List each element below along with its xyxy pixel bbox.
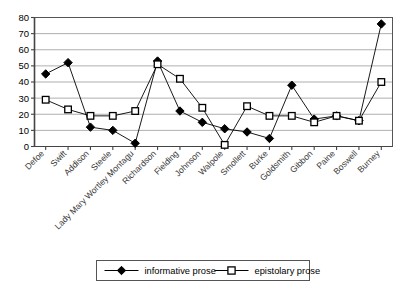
data-point-marker bbox=[65, 106, 72, 113]
legend-label-epistolary: epistolary prose bbox=[255, 266, 321, 276]
x-tick-label: Gibbon bbox=[288, 148, 315, 175]
series-markers bbox=[41, 20, 385, 148]
data-point-marker bbox=[87, 113, 94, 120]
data-point-marker bbox=[199, 105, 206, 112]
data-point-marker bbox=[378, 79, 385, 86]
y-tick-label: 0 bbox=[24, 141, 29, 152]
y-tick-label: 70 bbox=[18, 28, 29, 39]
x-axis-tick-labels: DefoeSwiftAddisonSteeleLady Mary Wortley… bbox=[23, 148, 382, 231]
y-axis-tick-labels: 01020304050607080 bbox=[18, 12, 29, 152]
data-point-marker bbox=[42, 96, 49, 103]
data-point-marker bbox=[154, 61, 161, 68]
series-line bbox=[46, 24, 382, 143]
y-tick-label: 40 bbox=[18, 76, 29, 87]
data-point-marker bbox=[244, 103, 251, 110]
data-point-marker bbox=[41, 70, 49, 78]
data-point-marker bbox=[333, 113, 340, 120]
y-tick-label: 30 bbox=[18, 93, 29, 104]
x-tick-label: Burney bbox=[355, 148, 382, 175]
y-tick-label: 50 bbox=[18, 60, 29, 71]
data-point-marker bbox=[266, 113, 273, 120]
data-point-marker bbox=[265, 134, 273, 142]
data-point-marker bbox=[221, 142, 228, 149]
y-tick-label: 80 bbox=[18, 12, 29, 23]
data-point-marker bbox=[109, 126, 117, 134]
data-point-marker bbox=[198, 118, 206, 126]
data-point-marker bbox=[110, 113, 117, 120]
series-line bbox=[46, 64, 382, 145]
data-point-marker bbox=[220, 125, 228, 133]
data-point-marker bbox=[177, 75, 184, 82]
data-point-marker bbox=[311, 119, 318, 126]
x-tick-label: Boswell bbox=[331, 148, 359, 176]
legend-marker-epistolary bbox=[228, 267, 235, 274]
data-point-marker bbox=[132, 108, 139, 115]
data-point-marker bbox=[356, 117, 363, 124]
line-chart: 01020304050607080 DefoeSwiftAddisonSteel… bbox=[0, 0, 407, 294]
legend-label-informative: informative prose bbox=[145, 266, 216, 276]
y-tick-label: 10 bbox=[18, 125, 29, 136]
data-point-marker bbox=[377, 20, 385, 28]
y-tick-label: 20 bbox=[18, 109, 29, 120]
chart-canvas: 01020304050607080 DefoeSwiftAddisonSteel… bbox=[0, 0, 407, 294]
data-point-marker bbox=[289, 113, 296, 120]
series-lines bbox=[46, 24, 382, 145]
data-point-marker bbox=[243, 128, 251, 136]
y-tick-label: 60 bbox=[18, 44, 29, 55]
x-tick-label: Addison bbox=[62, 148, 91, 177]
x-tick-label: Smollett bbox=[218, 148, 247, 177]
chart-legend: informative proseepistolary prose bbox=[97, 261, 321, 281]
